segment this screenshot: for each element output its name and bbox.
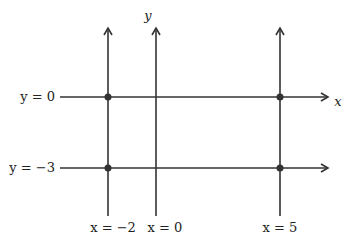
label-y-neg3: y = −3 bbox=[8, 160, 55, 175]
diagram-canvas: y x y = 0 y = −3 x = −2 x = 0 x = 5 bbox=[0, 0, 356, 241]
label-x-neg2: x = −2 bbox=[90, 220, 136, 235]
y-axis-label: y bbox=[143, 8, 152, 23]
x-axis-label: x bbox=[334, 94, 342, 109]
point-5-0 bbox=[277, 94, 284, 101]
point-5-neg3 bbox=[277, 165, 284, 172]
point-neg2-0 bbox=[105, 94, 112, 101]
label-x-5: x = 5 bbox=[263, 220, 298, 235]
point-neg2-neg3 bbox=[105, 165, 112, 172]
label-x-0: x = 0 bbox=[148, 220, 183, 235]
label-y-0: y = 0 bbox=[19, 89, 55, 104]
